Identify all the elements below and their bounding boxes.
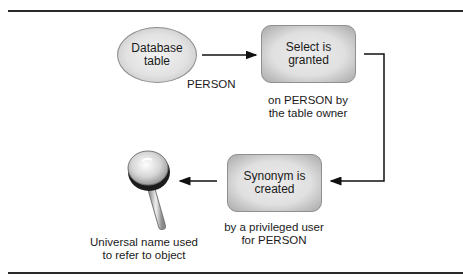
- synonym-created-caption: by a privileged user for PERSON: [214, 221, 334, 247]
- universal-name-caption-line1: Universal name used: [88, 236, 200, 249]
- node-synonym-created: Synonym is created: [227, 154, 322, 212]
- magnifying-glass-icon: [126, 148, 176, 233]
- node-database-table-line2: table: [131, 55, 182, 68]
- select-granted-caption-line1: on PERSON by: [258, 94, 358, 107]
- node-select-granted: Select is granted: [261, 25, 356, 83]
- universal-name-caption: Universal name used to refer to object: [88, 236, 200, 262]
- node-database-table: Database table: [117, 27, 197, 83]
- node-select-granted-line2: granted: [288, 54, 329, 67]
- node-synonym-created-line2: created: [254, 183, 294, 196]
- database-table-sublabel: PERSON: [187, 78, 233, 91]
- select-granted-caption-line2: the table owner: [258, 107, 358, 120]
- select-granted-caption: on PERSON by the table owner: [258, 94, 358, 120]
- universal-name-caption-line2: to refer to object: [88, 249, 200, 262]
- diagram-canvas: Database table PERSON Select is granted …: [0, 0, 463, 277]
- synonym-created-caption-line2: for PERSON: [214, 234, 334, 247]
- synonym-created-caption-line1: by a privileged user: [214, 221, 334, 234]
